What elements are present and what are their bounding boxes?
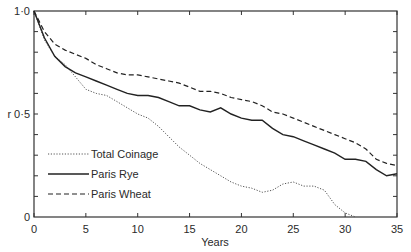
x-tick-label: 35 [391,223,403,235]
x-tick-label: 5 [83,223,89,235]
chart-series [34,11,397,217]
x-tick-label: 25 [287,223,299,235]
chart-legend: Total CoinageParis RyeParis Wheat [48,148,158,200]
x-tick-label: 20 [235,223,247,235]
x-tick-label: 15 [183,223,195,235]
x-tick-label: 30 [339,223,351,235]
y-tick-label: 1·0 [14,5,30,17]
y-tick-label: 0 [24,211,30,223]
line-chart: 051015202530350r 0·51·0 Total CoinagePar… [0,0,411,252]
x-tick-label: 0 [31,223,37,235]
series-line-total-coinage [34,11,356,217]
chart-svg: 051015202530350r 0·51·0 Total CoinagePar… [0,0,411,252]
legend-label: Paris Rye [91,168,139,180]
chart-axes [34,11,397,217]
x-tick-label: 10 [132,223,144,235]
legend-label: Paris Wheat [91,188,151,200]
legend-label: Total Coinage [91,148,158,160]
plot-frame [34,11,397,217]
y-tick-label: r 0·5 [7,108,30,120]
x-axis-label: Years [201,236,229,248]
series-line-paris-wheat [34,11,397,166]
series-line-paris-rye [34,11,397,176]
axis-ticks: 051015202530350r 0·51·0 [7,5,403,235]
